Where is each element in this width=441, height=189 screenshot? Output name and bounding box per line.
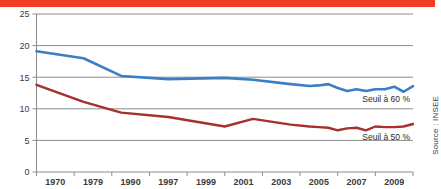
- x-axis-label-2009: 2009: [384, 177, 404, 187]
- y-axis-label: 25: [19, 9, 29, 19]
- y-axis-label: 0: [24, 167, 29, 177]
- chart-svg: 0510152025 19701979199019971999200120032…: [0, 0, 441, 189]
- series-label-seuil-50: Seuil à 50 %: [362, 132, 410, 142]
- x-axis-label-1979: 1979: [83, 177, 103, 187]
- y-axis-label: 10: [19, 104, 29, 114]
- y-axis-label: 15: [19, 73, 29, 83]
- x-axis-label-2005: 2005: [309, 177, 329, 187]
- series-inline-labels-group: Seuil à 60 %Seuil à 50 %: [362, 94, 410, 142]
- source-credit: Source : INSEE: [431, 96, 440, 155]
- gridlines-group: [37, 14, 414, 172]
- x-axis-label-1970: 1970: [45, 177, 65, 187]
- poverty-rate-chart: 0510152025 19701979199019971999200120032…: [0, 0, 441, 189]
- x-axis-labels-group: 1970197919901997199920012003200520072009: [45, 177, 404, 187]
- x-tick-marks-group: [37, 172, 414, 176]
- x-axis-label-2001: 2001: [234, 177, 254, 187]
- x-axis-label-2007: 2007: [347, 177, 367, 187]
- series-line-seuil-50: [37, 85, 414, 131]
- series-label-seuil-60: Seuil à 60 %: [362, 94, 410, 104]
- x-axis-label-2003: 2003: [271, 177, 291, 187]
- x-axis-label-1990: 1990: [121, 177, 141, 187]
- series-line-seuil-60: [37, 51, 414, 91]
- y-axis-labels-group: 0510152025: [19, 9, 29, 177]
- x-axis-label-1999: 1999: [196, 177, 216, 187]
- y-axis-label: 20: [19, 41, 29, 51]
- series-lines-group: [37, 51, 414, 130]
- x-axis-label-1997: 1997: [158, 177, 178, 187]
- y-tick-marks-group: [33, 14, 37, 172]
- chart-plot-area: 0510152025 19701979199019971999200120032…: [0, 0, 441, 189]
- y-axis-label: 5: [24, 136, 29, 146]
